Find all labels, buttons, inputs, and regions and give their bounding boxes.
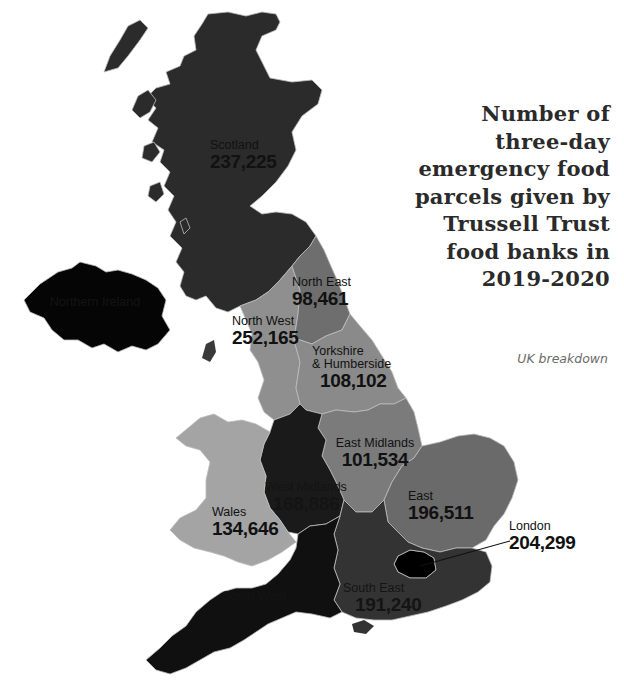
region-value: 237,225: [210, 152, 277, 172]
label-yorkshire: Yorkshire & Humberside 108,102: [312, 345, 391, 391]
region-value: 191,240: [343, 595, 422, 615]
region-value: 134,646: [212, 519, 279, 539]
label-north-east: North East 98,461: [292, 276, 351, 309]
label-north-west: North West 252,165: [232, 315, 299, 348]
title-line: Number of: [360, 100, 610, 128]
label-scotland: Scotland 237,225: [210, 139, 277, 172]
title-line: parcels given by: [360, 183, 610, 211]
region-value: 101,534: [325, 450, 425, 470]
region-value: 98,461: [292, 289, 351, 309]
title-line: food banks in: [360, 238, 610, 266]
region-name: South West: [222, 590, 286, 603]
map-subtitle: UK breakdown: [517, 351, 608, 366]
label-south-east: South East 191,240: [343, 582, 422, 615]
label-london: London 204,299: [509, 520, 576, 553]
region-scotland-islands: [104, 20, 148, 72]
label-northern-ireland: Northern Ireland: [40, 296, 150, 309]
map-title: Number of three-day emergency food parce…: [360, 100, 610, 293]
region-value: 196,511: [408, 503, 474, 523]
title-line: 2019-2020: [360, 265, 610, 293]
label-east: East 196,511: [408, 490, 474, 523]
isle-of-man: [202, 340, 216, 362]
title-line: emergency food: [360, 155, 610, 183]
region-value: 252,165: [232, 328, 299, 348]
isle-of-wight: [352, 620, 374, 634]
region-value: 204,299: [509, 533, 576, 553]
label-wales: Wales 134,646: [212, 506, 279, 539]
label-south-west: South West: [222, 590, 286, 603]
title-line: three-day: [360, 128, 610, 156]
region-name: Northern Ireland: [40, 296, 150, 309]
label-east-midlands: East Midlands 101,534: [325, 437, 425, 470]
title-line: Trussell Trust: [360, 210, 610, 238]
region-value: 108,102: [312, 371, 391, 391]
region-scotland-islay: [148, 182, 164, 202]
